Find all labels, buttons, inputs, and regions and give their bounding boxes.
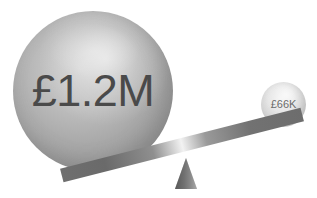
fulcrum-triangle-icon xyxy=(175,158,197,189)
balance-scale-graphic: £1.2M £66K xyxy=(0,0,317,198)
graphic-stage: £1.2M £66K xyxy=(0,0,317,198)
large-sphere-value-label: £1.2M xyxy=(13,68,173,113)
